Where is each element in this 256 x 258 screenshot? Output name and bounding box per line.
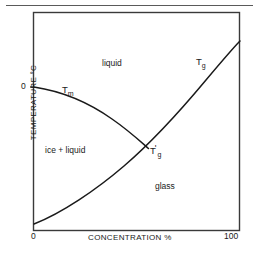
- page-bottom-artifact: [6, 250, 253, 253]
- x-axis-title: CONCENTRATION %: [88, 234, 172, 242]
- curve-label-tg: Tg: [196, 57, 206, 67]
- y-axis-title: TEMPERATURE °C: [29, 48, 38, 158]
- region-label-liquid: liquid: [102, 59, 122, 68]
- plot-canvas: [0, 0, 256, 258]
- curve-label-tg-prime: T'g: [150, 146, 161, 156]
- curve-label-tg-sub: g: [202, 62, 206, 69]
- curve-label-tg-prime-mark: ': [155, 143, 157, 153]
- region-label-ice-plus-liquid: ice + liquid: [45, 146, 85, 155]
- plot-frame: [34, 13, 240, 231]
- state-diagram-figure: TEMPERATURE °C 0 0 100 CONCENTRATION % l…: [0, 0, 256, 258]
- x-axis-tick-0: 0: [31, 232, 36, 241]
- curve-label-tg-prime-sub: g: [158, 151, 162, 158]
- tg-curve: [34, 41, 240, 224]
- region-label-glass: glass: [155, 182, 175, 191]
- curve-label-tm-base: T: [62, 84, 68, 95]
- curve-label-tm: Tm: [62, 85, 74, 95]
- y-axis-tick-0: 0: [21, 82, 26, 91]
- tm-curve: [34, 87, 149, 149]
- curve-label-tm-sub: m: [68, 90, 74, 97]
- x-axis-tick-100: 100: [224, 232, 238, 241]
- curve-label-tg-base: T: [196, 56, 202, 67]
